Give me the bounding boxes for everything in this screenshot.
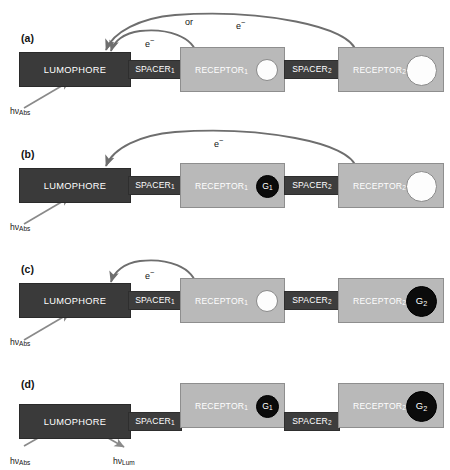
receptor1-label: RECEPTOR1 <box>195 180 248 190</box>
guest-g1-label: G1 <box>262 401 272 411</box>
receptor1-block-a: RECEPTOR1 <box>180 47 285 92</box>
spacer1-block-a: SPACER1 <box>128 60 182 79</box>
spacer2-block-c: SPACER2 <box>284 291 340 310</box>
photon-absorption-label-b: hνAbs <box>10 222 30 232</box>
lumophore-label: LUMOPHORE <box>44 181 107 191</box>
receptor2-guest-site-b <box>406 171 437 202</box>
panel-a-label: (a) <box>21 32 34 44</box>
spacer2-label: SPACER2 <box>292 416 332 426</box>
lumophore-block-a: LUMOPHORE <box>19 52 131 87</box>
receptor1-guest-site-d: G1 <box>256 395 279 418</box>
guest-g2-label: G2 <box>416 400 427 413</box>
lumophore-label: LUMOPHORE <box>44 65 107 75</box>
electron-label-right-a: e− <box>236 18 245 31</box>
receptor2-label: RECEPTOR2 <box>353 180 406 190</box>
spacer2-label: SPACER2 <box>292 295 332 305</box>
spacer2-block-a: SPACER2 <box>284 60 340 79</box>
spacer1-block-c: SPACER1 <box>128 291 182 310</box>
spacer1-label: SPACER1 <box>135 295 175 305</box>
receptor1-label: RECEPTOR1 <box>195 400 248 410</box>
spacer1-block-b: SPACER1 <box>128 176 182 195</box>
receptor2-label: RECEPTOR2 <box>353 64 406 74</box>
receptor2-label: RECEPTOR2 <box>353 295 406 305</box>
receptor2-guest-site-d: G2 <box>406 391 437 422</box>
spacer1-block-d: SPACER1 <box>128 412 182 431</box>
spacer2-block-b: SPACER2 <box>284 176 340 195</box>
receptor2-guest-site-c: G2 <box>406 286 437 317</box>
electron-label-c: e− <box>145 268 154 281</box>
receptor1-block-b: RECEPTOR1 G1 <box>180 163 285 208</box>
receptor2-block-d: RECEPTOR2 G2 <box>338 383 444 428</box>
receptor1-label: RECEPTOR1 <box>195 295 248 305</box>
pet-logic-gate-figure: (a) LUMOPHORE SPACER1 RECEPTOR1 SPACER2 … <box>0 0 450 470</box>
receptor2-guest-site-a <box>406 55 437 86</box>
receptor1-guest-site-c <box>256 290 278 312</box>
guest-g1-label: G1 <box>262 181 272 191</box>
photon-absorption-label-c: hνAbs <box>10 337 30 347</box>
receptor1-block-c: RECEPTOR1 <box>180 278 285 323</box>
receptor2-block-a: RECEPTOR2 <box>338 47 444 92</box>
panel-d: (d) LUMOPHORE SPACER1 RECEPTOR1 G1 SPACE… <box>0 352 450 470</box>
photon-absorption-label-a: hνAbs <box>10 106 30 116</box>
guest-g2-label: G2 <box>416 295 427 308</box>
lumophore-block-b: LUMOPHORE <box>19 168 131 203</box>
spacer1-label: SPACER1 <box>135 416 175 426</box>
panel-b: (b) LUMOPHORE SPACER1 RECEPTOR1 G1 SPACE… <box>0 116 450 234</box>
receptor2-block-b: RECEPTOR2 <box>338 163 444 208</box>
receptor2-label: RECEPTOR2 <box>353 400 406 410</box>
panel-c: (c) LUMOPHORE SPACER1 RECEPTOR1 SPACER2 … <box>0 232 450 350</box>
spacer2-label: SPACER2 <box>292 64 332 74</box>
lumophore-label: LUMOPHORE <box>44 296 107 306</box>
panel-b-label: (b) <box>21 148 35 160</box>
spacer1-label: SPACER1 <box>135 64 175 74</box>
lumophore-label: LUMOPHORE <box>44 417 107 427</box>
spacer2-label: SPACER2 <box>292 180 332 190</box>
photon-absorption-label-d: hνAbs <box>10 456 30 466</box>
receptor1-block-d: RECEPTOR1 G1 <box>180 383 285 428</box>
electron-label-b: e− <box>214 136 223 149</box>
lumophore-block-d: LUMOPHORE <box>19 404 131 439</box>
spacer1-label: SPACER1 <box>135 180 175 190</box>
electron-label-left-a: e− <box>145 36 154 49</box>
receptor2-block-c: RECEPTOR2 G2 <box>338 278 444 323</box>
panel-a: (a) LUMOPHORE SPACER1 RECEPTOR1 SPACER2 … <box>0 0 450 118</box>
lumophore-block-c: LUMOPHORE <box>19 283 131 318</box>
spacer2-block-d: SPACER2 <box>284 412 340 431</box>
panel-d-label: (d) <box>21 378 35 390</box>
photon-luminescence-label-d: hνLum <box>113 456 135 466</box>
panel-c-label: (c) <box>21 263 34 275</box>
or-label-a: or <box>185 17 193 27</box>
receptor1-label: RECEPTOR1 <box>195 64 248 74</box>
receptor1-guest-site-b: G1 <box>256 175 279 198</box>
receptor1-guest-site-a <box>256 59 278 81</box>
